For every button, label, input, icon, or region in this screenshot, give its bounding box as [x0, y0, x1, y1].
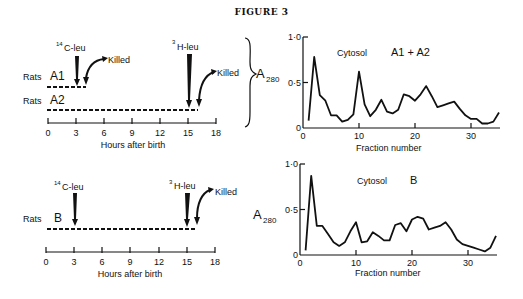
- svg-text:6: 6: [101, 128, 106, 138]
- curved-arrow-icon: [199, 72, 214, 100]
- group-label-b: B: [54, 211, 62, 225]
- x-tick-label: 20: [410, 131, 420, 141]
- arrowhead-icon: [196, 99, 202, 107]
- h3-label-b: H-leu: [174, 181, 196, 191]
- x-tick-label: 0: [297, 258, 302, 268]
- data-series-line: [309, 57, 499, 124]
- group-label-a2: A2: [50, 93, 65, 107]
- timeline-tick-labels-a: 0 3 6 9 12 15 18: [45, 128, 221, 138]
- x-tick-label: 10: [354, 131, 364, 141]
- ylabel-sub-1: 280: [266, 75, 280, 84]
- arrowhead-icon: [194, 217, 200, 225]
- svg-text:3: 3: [73, 128, 78, 138]
- svg-text:15: 15: [183, 128, 193, 138]
- killed-label-a1: Killed: [108, 55, 130, 65]
- group-label-b-prefix: Rats: [23, 214, 42, 224]
- ylabel-main-2: A: [253, 207, 262, 222]
- svg-text:18: 18: [211, 128, 221, 138]
- arrow-down-icon: [72, 193, 78, 226]
- svg-text:6: 6: [99, 257, 104, 267]
- xlabel-2: Fraction number: [355, 268, 421, 278]
- arrow-down-icon: [74, 56, 80, 86]
- timeline-xlabel-b: Hours after birth: [98, 269, 163, 279]
- chart-title-prefix-1: Cytosol: [337, 48, 367, 58]
- y-tick-label: 1·0: [285, 159, 298, 169]
- svg-text:12: 12: [154, 257, 164, 267]
- xlabel-1: Fraction number: [356, 143, 422, 153]
- x-tick-label: 20: [407, 258, 417, 268]
- svg-text:18: 18: [210, 257, 220, 267]
- arrow-down-icon: [186, 54, 192, 108]
- y-tick-label: 1·0: [288, 32, 301, 42]
- h3-sup-b: 3: [169, 179, 173, 185]
- x-tick-label: 30: [466, 131, 476, 141]
- chart-title-suffix-2: B: [410, 174, 417, 186]
- group-label-a1: A1: [50, 69, 65, 83]
- killed-label-b: Killed: [215, 187, 237, 197]
- x-tick-label: 30: [463, 258, 473, 268]
- ylabel-sub-2: 280: [263, 216, 277, 225]
- timeline-b: Rats B 14 C-leu 3 H-leu Killed 0 3 6 9 1…: [23, 179, 237, 279]
- c14-sup-a: 14: [56, 41, 63, 47]
- curved-arrow-icon: [197, 190, 210, 218]
- h3-sup-a: 3: [172, 39, 176, 45]
- h3-label-a: H-leu: [177, 42, 199, 52]
- timeline-xlabel-a: Hours after birth: [101, 140, 166, 150]
- svg-text:9: 9: [129, 128, 134, 138]
- timeline-a: Rats A1 Rats A2 14 C-leu Killed 3 H-leu …: [23, 38, 256, 150]
- x-tick-label: 0: [300, 131, 305, 141]
- svg-text:15: 15: [182, 257, 192, 267]
- chart-title-suffix-1: A1 + A2: [391, 46, 430, 58]
- brace-icon: [245, 38, 256, 127]
- chart-cytosol-b: A 280 Cytosol B 00·51·00102030 Fraction …: [253, 159, 497, 278]
- svg-text:12: 12: [155, 128, 165, 138]
- curved-arrow-icon: [86, 59, 104, 78]
- figure-canvas: Rats A1 Rats A2 14 C-leu Killed 3 H-leu …: [0, 0, 523, 299]
- arrow-down-icon: [184, 193, 190, 227]
- ylabel-main-1: A: [256, 66, 265, 81]
- x-tick-label: 10: [351, 258, 361, 268]
- chart-cytosol-a1-a2: A 280 Cytosol A1 + A2 00·51·00102030 Fra…: [256, 32, 500, 153]
- c14-label-b: C-leu: [62, 182, 84, 192]
- svg-text:3: 3: [71, 257, 76, 267]
- chart-title-prefix-2: Cytosol: [357, 176, 387, 186]
- arrowhead-icon: [83, 77, 89, 85]
- y-tick-label: 0·5: [288, 78, 301, 88]
- svg-text:0: 0: [45, 128, 50, 138]
- c14-label-a: C-leu: [64, 43, 86, 53]
- group-label-a2-prefix: Rats: [23, 96, 42, 106]
- arrow-tail-icon: [208, 187, 214, 193]
- y-tick-label: 0·5: [285, 205, 298, 215]
- c14-sup-b: 14: [54, 180, 61, 186]
- svg-text:9: 9: [127, 257, 132, 267]
- timeline-tick-labels-b: 0 3 6 9 12 15 18: [43, 257, 220, 267]
- svg-text:0: 0: [43, 257, 48, 267]
- data-series-line: [306, 176, 496, 252]
- group-label-a1-prefix: Rats: [23, 72, 42, 82]
- killed-label-a2: Killed: [217, 68, 239, 78]
- plot-area-2: 00·51·00102030: [285, 159, 497, 268]
